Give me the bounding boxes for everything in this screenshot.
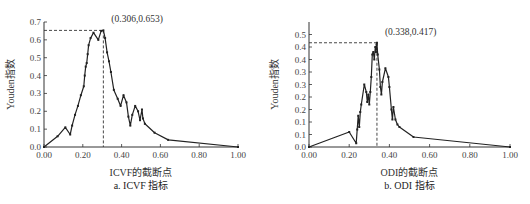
data-point-marker <box>359 111 361 113</box>
data-point-marker <box>131 114 133 116</box>
y-tick-label: 0.4 <box>295 55 307 65</box>
data-point-marker <box>388 86 390 88</box>
data-point-marker <box>84 75 86 77</box>
data-point-marker <box>123 94 125 96</box>
data-point-marker <box>387 76 389 78</box>
data-point-marker <box>396 124 398 126</box>
data-point-marker <box>69 134 71 136</box>
x-tick-label: 0.60 <box>153 150 169 160</box>
data-point-marker <box>378 69 380 71</box>
data-point-marker <box>360 104 362 106</box>
data-point-marker <box>370 76 372 78</box>
data-point-marker <box>369 91 371 93</box>
data-line <box>309 43 510 147</box>
data-point-marker <box>381 81 383 83</box>
data-point-marker <box>43 146 45 148</box>
y-tick-label: 0.1 <box>30 124 41 134</box>
y-axis-label: Youden指数 <box>268 59 280 110</box>
chart-odi: 0.00.10.10.20.20.30.30.40.40.50.000.200.… <box>268 22 518 191</box>
x-tick-label: 0.20 <box>75 150 91 160</box>
data-point-marker <box>97 39 99 41</box>
data-point-marker <box>377 54 379 56</box>
data-point-marker <box>77 105 79 107</box>
y-tick-label: 0.4 <box>30 71 42 81</box>
data-point-marker <box>110 71 112 73</box>
data-line <box>44 30 238 147</box>
data-point-marker <box>74 114 76 116</box>
data-point-marker <box>384 67 386 69</box>
data-point-marker <box>365 91 367 93</box>
data-point-marker <box>88 44 90 46</box>
data-point-marker <box>104 37 106 39</box>
peak-annotation: (0.338,0.417) <box>385 27 436 38</box>
data-point-marker <box>83 85 85 87</box>
data-point-marker <box>129 125 131 127</box>
x-tick-label: 0.00 <box>301 150 317 160</box>
x-axis-label: ODI的截断点 <box>381 166 439 178</box>
y-tick-label: 0.2 <box>295 92 306 102</box>
chart-caption: a. ICVF 指标 <box>114 179 169 191</box>
data-point-marker <box>92 32 94 34</box>
y-tick-label: 0.1 <box>295 117 306 127</box>
data-point-marker <box>100 30 102 32</box>
data-point-marker <box>392 106 394 108</box>
x-tick-label: 0.40 <box>382 150 398 160</box>
data-point-marker <box>139 119 141 121</box>
data-point-marker <box>363 84 365 86</box>
data-point-marker <box>125 101 127 103</box>
data-point-marker <box>368 104 370 106</box>
y-tick-label: 0.4 <box>295 42 307 52</box>
data-point-marker <box>308 146 310 148</box>
x-tick-label: 0.40 <box>114 150 130 160</box>
data-point-marker <box>85 66 87 68</box>
data-point-marker <box>357 115 359 117</box>
data-point-marker <box>358 126 360 128</box>
data-point-marker <box>113 89 115 91</box>
x-tick-label: 0.80 <box>462 150 478 160</box>
data-point-marker <box>142 117 144 119</box>
data-point-marker <box>108 60 110 62</box>
data-point-marker <box>398 126 400 128</box>
data-point-marker <box>237 146 239 148</box>
data-point-marker <box>137 110 139 112</box>
data-point-marker <box>348 131 350 133</box>
data-point-marker <box>391 119 393 121</box>
data-point-marker <box>509 146 511 148</box>
data-point-marker <box>134 105 136 107</box>
data-point-marker <box>71 125 73 127</box>
data-point-marker <box>366 101 368 103</box>
x-axis-label: ICVF的截断点 <box>110 166 173 178</box>
x-tick-label: 1.00 <box>502 150 518 160</box>
y-tick-label: 0.5 <box>30 53 42 63</box>
data-point-marker <box>57 135 59 137</box>
data-point-marker <box>117 98 119 100</box>
data-point-marker <box>390 109 392 111</box>
data-point-marker <box>373 59 375 61</box>
data-point-marker <box>371 54 373 56</box>
data-point-marker <box>167 139 169 141</box>
y-tick-label: 0.3 <box>295 67 307 77</box>
x-tick-label: 0.80 <box>191 150 207 160</box>
data-point-marker <box>375 51 377 53</box>
y-tick-label: 0.1 <box>295 130 306 140</box>
data-point-marker <box>355 142 357 144</box>
data-point-marker <box>106 51 108 53</box>
x-tick-label: 0.60 <box>422 150 438 160</box>
data-point-marker <box>379 86 381 88</box>
y-tick-label: 0.7 <box>30 17 42 27</box>
x-tick-label: 1.00 <box>230 150 246 160</box>
y-tick-label: 0.3 <box>295 80 307 90</box>
data-point-marker <box>144 123 146 125</box>
data-point-marker <box>80 94 82 96</box>
data-point-marker <box>120 105 122 107</box>
data-point-marker <box>87 53 89 55</box>
data-point-marker <box>154 132 156 134</box>
x-tick-label: 0.00 <box>36 150 52 160</box>
figure-canvas: 0.00.10.20.30.40.50.60.70.000.200.400.60… <box>0 0 530 204</box>
data-point-marker <box>86 62 88 64</box>
y-tick-label: 0.3 <box>30 88 42 98</box>
data-point-marker <box>376 44 378 46</box>
data-point-marker <box>374 46 376 48</box>
data-point-marker <box>376 42 378 44</box>
data-point-marker <box>102 29 104 31</box>
